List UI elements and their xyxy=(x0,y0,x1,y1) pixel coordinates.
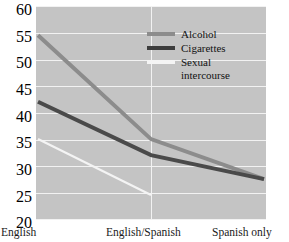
legend-item-alcohol: Alcohol xyxy=(147,28,273,41)
legend-swatch-sexual-intercourse xyxy=(147,60,175,64)
line-chart: 60 55 50 45 40 35 30 25 20 Alcohol Cigar… xyxy=(0,0,289,242)
legend: Alcohol Cigarettes Sexual intercourse xyxy=(147,28,273,83)
legend-swatch-cigarettes xyxy=(147,46,175,50)
x-tick-label-english-spanish: English/Spanish xyxy=(106,226,181,238)
legend-label-sexual-intercourse-group: Sexual intercourse xyxy=(181,56,273,81)
legend-label-sexual-intercourse-line2: intercourse xyxy=(181,69,273,82)
legend-item-sexual-intercourse: Sexual intercourse xyxy=(147,56,273,82)
legend-label-sexual-intercourse-line1: Sexual xyxy=(181,56,273,69)
x-tick-label-english: English xyxy=(1,226,36,238)
x-tick-label-spanish-only: Spanish only xyxy=(212,226,272,238)
legend-swatch-alcohol xyxy=(147,32,175,36)
legend-label-alcohol: Alcohol xyxy=(181,28,216,41)
legend-label-cigarettes: Cigarettes xyxy=(181,42,226,55)
legend-item-cigarettes: Cigarettes xyxy=(147,42,273,55)
